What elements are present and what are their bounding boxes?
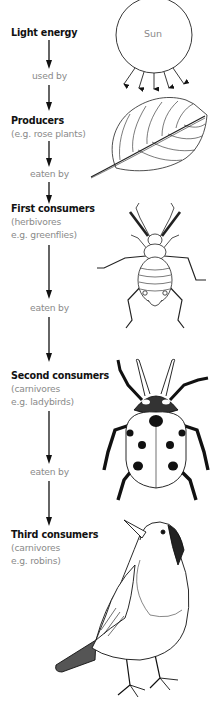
stage-subtitle-third-consumers-line1: (carnivores xyxy=(11,542,60,553)
stage-title-second-consumers: Second consumers xyxy=(11,370,109,381)
stage-subtitle-second-consumers-line1: (carnivores xyxy=(11,383,60,394)
stage-title-light-energy: Light energy xyxy=(11,27,77,38)
stage-subtitle-second-consumers-line2: e.g. ladybirds) xyxy=(11,396,74,407)
flow-arrows xyxy=(46,40,52,526)
stage-subtitle-producers: (e.g. rose plants) xyxy=(11,128,86,139)
link-label-used-by: used by xyxy=(32,70,67,81)
stage-title-producers: Producers xyxy=(11,115,64,126)
leaf-icon xyxy=(91,97,207,178)
sun-label: Sun xyxy=(144,28,162,39)
stage-title-first-consumers: First consumers xyxy=(11,203,95,214)
stage-title-third-consumers: Third consumers xyxy=(11,529,98,540)
food-chain-drawing xyxy=(0,0,216,713)
ladybird-icon xyxy=(104,359,208,500)
sun-icon xyxy=(116,0,192,89)
greenfly-icon xyxy=(97,203,206,328)
link-label-eaten-by-2: eaten by xyxy=(30,302,69,313)
link-label-eaten-by-1: eaten by xyxy=(30,168,69,179)
link-label-eaten-by-3: eaten by xyxy=(30,466,69,477)
stage-subtitle-first-consumers-line2: e.g. greenflies) xyxy=(11,229,77,240)
stage-subtitle-third-consumers-line2: e.g. robins) xyxy=(11,555,61,566)
stage-subtitle-first-consumers-line1: (herbivores xyxy=(11,216,61,227)
robin-icon xyxy=(56,520,189,697)
